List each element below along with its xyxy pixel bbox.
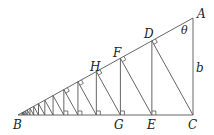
perpendicular-to-hypotenuse [45, 100, 53, 115]
right-angle-mark-base [96, 111, 100, 115]
label-C: C [188, 119, 197, 131]
perpendicular-to-hypotenuse [152, 41, 193, 115]
perpendicular-to-hypotenuse [34, 106, 39, 115]
label-E: E [147, 119, 156, 131]
perpendicular-to-hypotenuse [120, 58, 151, 115]
perpendicular-to-hypotenuse [30, 108, 34, 115]
right-angle-mark-base [64, 111, 68, 115]
label-b: b [196, 62, 204, 74]
label-F: F [113, 47, 121, 59]
right-angle-mark-base [120, 111, 124, 115]
right-angle-mark-base [152, 111, 156, 115]
perpendicular-to-hypotenuse [96, 72, 120, 115]
right-angle-mark-base [78, 111, 82, 115]
label-B: B [13, 119, 22, 131]
hypotenuse-BA [18, 18, 193, 115]
label-H: H [90, 61, 100, 73]
triangle-zigzag-figure [0, 0, 214, 135]
label-D: D [144, 28, 154, 40]
label-G: G [114, 119, 124, 131]
perpendicular-to-hypotenuse [78, 82, 96, 115]
diagram-canvas: A θ b D F H B G E C [0, 0, 214, 135]
perpendicular-to-hypotenuse [39, 104, 45, 115]
label-theta: θ [181, 25, 188, 36]
perpendicular-to-hypotenuse [53, 96, 64, 115]
label-A: A [197, 8, 206, 20]
